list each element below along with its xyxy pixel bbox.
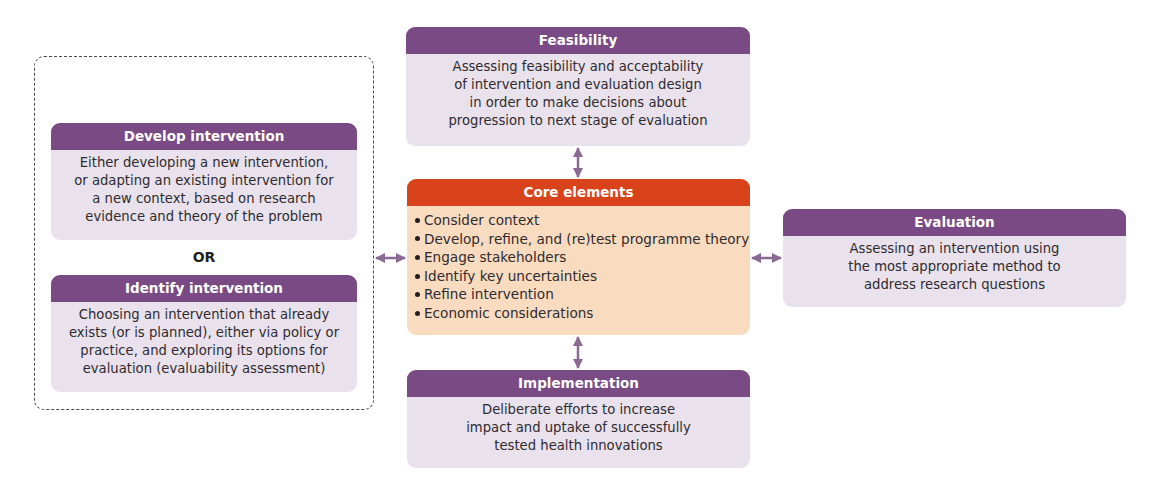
connector-arrows <box>0 0 1155 492</box>
